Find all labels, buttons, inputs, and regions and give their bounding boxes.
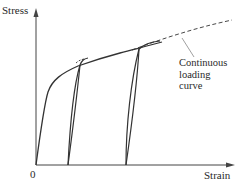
annotation-leader-line: [182, 38, 194, 57]
reload-curve-1: [68, 58, 88, 165]
x-axis-arrow-icon: [226, 163, 235, 168]
x-axis-label: Strain: [204, 169, 230, 181]
stress-strain-diagram: Stress Strain 0 Continuous loading curve: [0, 0, 243, 191]
loading-curve-initial: [36, 42, 162, 165]
unload-curve-2: [126, 49, 139, 165]
diagram-canvas: [0, 0, 243, 191]
origin-label: 0: [30, 168, 36, 180]
reload-curve-2: [126, 41, 160, 165]
y-axis-label: Stress: [2, 4, 28, 16]
continuous-loading-curve-label: Continuous loading curve: [179, 57, 227, 92]
unload-curve-1: [68, 65, 80, 165]
y-axis-arrow-icon: [34, 8, 39, 17]
